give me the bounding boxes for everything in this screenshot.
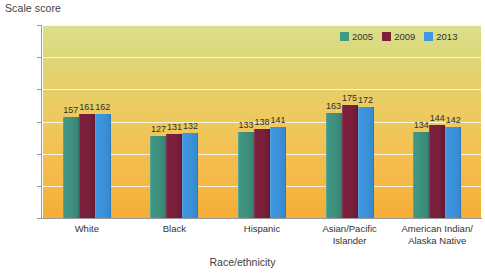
category-label: Asian/PacificIslander: [306, 221, 394, 255]
category-label-line: Alaska Native: [393, 235, 481, 247]
bar-2013-american-indian-alaska-native[interactable]: 142: [445, 127, 461, 218]
legend-label: 2009: [394, 31, 415, 42]
bar-group: 133138141: [218, 25, 306, 218]
bar-group: 157161162: [43, 25, 131, 218]
legend-label: 2013: [436, 31, 457, 42]
category-label-line: White: [43, 223, 131, 235]
category-label: White: [43, 221, 131, 255]
bar-value-label: 134: [414, 120, 429, 130]
bar-2013-asian-pacific-islander[interactable]: 172: [358, 107, 374, 218]
bar-2005-white[interactable]: 157: [63, 117, 79, 218]
bar-group: 127131132: [131, 25, 219, 218]
bar-slot: 161: [79, 25, 95, 218]
bar-groups: 1571611621271311321331381411631751721341…: [43, 25, 481, 218]
bar-2013-hispanic[interactable]: 141: [270, 127, 286, 218]
bar-slot: 134: [413, 25, 429, 218]
bar-value-label: 175: [342, 93, 357, 103]
bar-2009-black[interactable]: 131: [166, 134, 182, 218]
bar-value-label: 172: [358, 95, 373, 105]
bar-value-label: 127: [151, 124, 166, 134]
category-label: Hispanic: [218, 221, 306, 255]
x-axis-category-labels: WhiteBlackHispanicAsian/PacificIslanderA…: [43, 221, 481, 255]
legend-item-2013[interactable]: 2013: [424, 31, 457, 42]
legend: 200520092013: [340, 31, 457, 42]
bar-2009-white[interactable]: 161: [79, 114, 95, 218]
bar-value-label: 157: [63, 105, 78, 115]
bar-value-label: 163: [326, 101, 341, 111]
x-axis-title: Race/ethnicity: [0, 256, 485, 268]
bar-group: 134144142: [393, 25, 481, 218]
legend-swatch-icon: [424, 32, 433, 41]
bar-value-label: 138: [254, 117, 269, 127]
bar-value-label: 131: [167, 122, 182, 132]
bar-slot: 172: [358, 25, 374, 218]
bar-slot: 138: [254, 25, 270, 218]
bar-2009-hispanic[interactable]: 138: [254, 129, 270, 218]
bar-value-label: 132: [183, 121, 198, 131]
bar-value-label: 133: [238, 120, 253, 130]
bar-value-label: 142: [446, 115, 461, 125]
y-axis-line: [41, 25, 42, 219]
bar-2013-white[interactable]: 162: [95, 114, 111, 218]
bar-slot: 144: [429, 25, 445, 218]
bar-value-label: 161: [79, 102, 94, 112]
category-label-line: Hispanic: [218, 223, 306, 235]
category-label-line: Black: [131, 223, 219, 235]
bar-2009-american-indian-alaska-native[interactable]: 144: [429, 125, 445, 218]
bar-slot: 162: [95, 25, 111, 218]
bar-slot: 163: [326, 25, 342, 218]
bar-2013-black[interactable]: 132: [182, 133, 198, 218]
category-label-line: American Indian/: [393, 223, 481, 235]
category-label: American Indian/Alaska Native: [393, 221, 481, 255]
legend-swatch-icon: [340, 32, 349, 41]
bar-chart: Scale score 1571611621271311321331381411…: [0, 0, 485, 276]
category-label-line: Islander: [306, 235, 394, 247]
bar-slot: 157: [63, 25, 79, 218]
bar-slot: 141: [270, 25, 286, 218]
category-label-line: Asian/Pacific: [306, 223, 394, 235]
bar-2009-asian-pacific-islander[interactable]: 175: [342, 105, 358, 218]
bar-2005-hispanic[interactable]: 133: [238, 132, 254, 218]
bar-2005-asian-pacific-islander[interactable]: 163: [326, 113, 342, 218]
bar-slot: 127: [150, 25, 166, 218]
bar-slot: 142: [445, 25, 461, 218]
plot-area: 1571611621271311321331381411631751721341…: [43, 25, 481, 218]
category-label: Black: [131, 221, 219, 255]
bar-slot: 132: [182, 25, 198, 218]
legend-swatch-icon: [382, 32, 391, 41]
bar-group: 163175172: [306, 25, 394, 218]
bar-2005-american-indian-alaska-native[interactable]: 134: [413, 132, 429, 218]
bar-slot: 133: [238, 25, 254, 218]
bar-2005-black[interactable]: 127: [150, 136, 166, 218]
legend-label: 2005: [352, 31, 373, 42]
legend-item-2009[interactable]: 2009: [382, 31, 415, 42]
bar-value-label: 162: [95, 102, 110, 112]
x-axis-line: [41, 218, 482, 219]
bar-slot: 175: [342, 25, 358, 218]
bar-slot: 131: [166, 25, 182, 218]
bar-value-label: 144: [430, 113, 445, 123]
legend-item-2005[interactable]: 2005: [340, 31, 373, 42]
bar-value-label: 141: [270, 115, 285, 125]
y-axis-title: Scale score: [5, 2, 61, 14]
